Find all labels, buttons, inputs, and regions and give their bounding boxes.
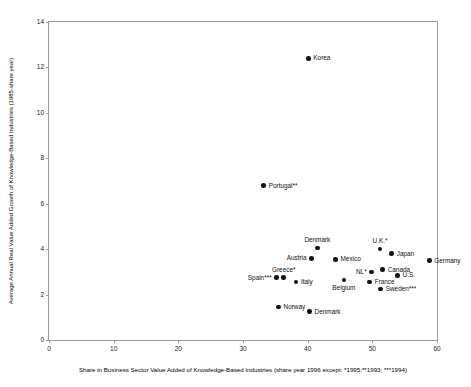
data-point bbox=[276, 305, 281, 310]
data-point-label: Japan bbox=[397, 250, 414, 256]
plot-area: 024681012140102030405060KoreaPortugal**D… bbox=[48, 21, 438, 341]
data-point-label: Germany bbox=[434, 257, 460, 263]
data-point-label: U.S. bbox=[403, 272, 415, 278]
y-axis-title: Average Annual Real Value Added Growth o… bbox=[6, 21, 17, 341]
x-tick-mark bbox=[243, 340, 244, 343]
data-point bbox=[378, 287, 383, 292]
data-point bbox=[261, 183, 266, 188]
data-point bbox=[274, 275, 279, 280]
x-axis-tick-label: 30 bbox=[239, 346, 246, 353]
data-point-label: Korea bbox=[313, 55, 330, 61]
data-point bbox=[294, 280, 299, 285]
x-tick-mark bbox=[372, 340, 373, 343]
y-axis-tick-label: 6 bbox=[40, 200, 49, 207]
x-tick-mark bbox=[114, 340, 115, 343]
x-axis-title: Share in Business Sector Value Added of … bbox=[48, 366, 438, 373]
data-point-label: NL* bbox=[356, 269, 367, 275]
x-tick-mark bbox=[308, 340, 309, 343]
data-point bbox=[281, 275, 286, 280]
data-point bbox=[306, 56, 311, 61]
data-point bbox=[309, 256, 314, 261]
data-point bbox=[333, 257, 338, 262]
y-axis-tick-label: 4 bbox=[40, 246, 49, 253]
data-point bbox=[315, 246, 320, 251]
x-axis-tick-label: 0 bbox=[47, 346, 51, 353]
scatter-chart-figure: Average Annual Real Value Added Growth o… bbox=[0, 0, 471, 387]
data-point bbox=[380, 267, 385, 272]
y-axis-tick-label: 14 bbox=[37, 19, 49, 26]
data-point-label: Spain*** bbox=[248, 274, 272, 280]
data-point-label: Norway bbox=[284, 304, 306, 310]
data-point bbox=[342, 278, 347, 283]
x-tick-mark bbox=[178, 340, 179, 343]
data-point-label: Austria bbox=[287, 255, 307, 261]
data-point bbox=[369, 270, 374, 275]
data-point-label: U.K.* bbox=[373, 238, 388, 244]
data-point-label: Italy bbox=[301, 279, 313, 285]
data-point bbox=[378, 247, 383, 252]
data-point bbox=[395, 273, 400, 278]
x-axis-tick-label: 50 bbox=[369, 346, 376, 353]
x-axis-tick-label: 20 bbox=[175, 346, 182, 353]
y-axis-tick-label: 2 bbox=[40, 291, 49, 298]
x-tick-mark bbox=[437, 340, 438, 343]
data-point bbox=[367, 280, 372, 285]
x-tick-mark bbox=[49, 340, 50, 343]
data-point-label: Denmark bbox=[304, 237, 330, 243]
y-axis-tick-label: 8 bbox=[40, 155, 49, 162]
x-axis-tick-label: 40 bbox=[304, 346, 311, 353]
data-point-label: Greece* bbox=[272, 266, 295, 272]
y-axis-tick-label: 0 bbox=[40, 337, 49, 344]
data-point-label: Portugal** bbox=[269, 182, 298, 188]
y-axis-tick-label: 10 bbox=[37, 110, 49, 117]
data-point bbox=[307, 309, 312, 314]
x-axis-tick-label: 60 bbox=[433, 346, 440, 353]
data-point bbox=[389, 251, 394, 256]
data-point bbox=[427, 258, 432, 263]
x-axis-tick-label: 10 bbox=[110, 346, 117, 353]
data-point-label: Denmark bbox=[315, 308, 341, 314]
y-axis-tick-label: 12 bbox=[37, 64, 49, 71]
data-point-label: Mexico bbox=[340, 256, 360, 262]
data-point-label: Sweden*** bbox=[386, 286, 417, 292]
data-point-label: Belgium bbox=[332, 285, 355, 291]
